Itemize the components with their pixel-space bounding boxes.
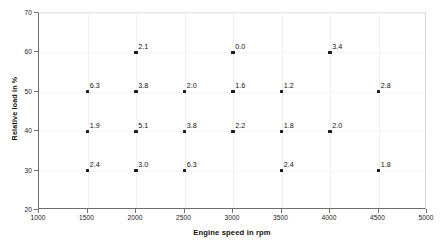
y-axis-title: Relative load in % xyxy=(10,54,19,164)
y-tick-mark xyxy=(34,170,38,171)
data-point-marker xyxy=(377,90,380,93)
data-point-marker xyxy=(86,90,89,93)
y-tick-mark xyxy=(34,51,38,52)
x-tick-label: 1500 xyxy=(79,214,94,221)
data-point-label: 5.1 xyxy=(138,121,148,130)
data-point-label: 2.8 xyxy=(381,81,391,90)
y-tick-label: 40 xyxy=(24,127,32,134)
data-point-label: 3.8 xyxy=(138,81,148,90)
data-point-marker xyxy=(86,130,89,133)
data-point-marker xyxy=(86,169,89,172)
data-point-marker xyxy=(134,130,137,133)
data-point-label: 2.4 xyxy=(90,160,100,169)
data-point-marker xyxy=(183,169,186,172)
horizontal-gridline xyxy=(39,171,425,172)
data-point-label: 1.9 xyxy=(90,121,100,130)
y-tick-label: 20 xyxy=(24,206,32,213)
data-point-label: 2.0 xyxy=(187,81,197,90)
data-point-marker xyxy=(377,169,380,172)
data-point-label: 0.0 xyxy=(235,42,245,51)
data-point-label: 6.3 xyxy=(187,160,197,169)
data-point-marker xyxy=(134,90,137,93)
data-point-label: 2.4 xyxy=(284,160,294,169)
data-point-marker xyxy=(328,51,331,54)
horizontal-gridline xyxy=(39,13,425,14)
data-point-label: 6.3 xyxy=(90,81,100,90)
y-tick-mark xyxy=(34,91,38,92)
x-tick-label: 2000 xyxy=(127,214,142,221)
data-point-marker xyxy=(231,51,234,54)
x-tick-label: 2500 xyxy=(176,214,191,221)
data-point-marker xyxy=(280,90,283,93)
x-tick-mark xyxy=(281,209,282,213)
data-point-marker xyxy=(280,169,283,172)
data-point-label: 3.0 xyxy=(138,160,148,169)
data-point-marker xyxy=(231,90,234,93)
data-point-marker xyxy=(280,130,283,133)
vertical-gridline xyxy=(185,13,186,208)
vertical-gridline xyxy=(282,13,283,208)
x-tick-mark xyxy=(378,209,379,213)
data-point-label: 1.8 xyxy=(381,160,391,169)
data-point-marker xyxy=(183,130,186,133)
x-tick-label: 4000 xyxy=(321,214,336,221)
y-tick-mark xyxy=(34,209,38,210)
vertical-gridline xyxy=(88,13,89,208)
data-point-label: 2.2 xyxy=(235,121,245,130)
gridlines xyxy=(39,13,425,208)
y-tick-mark xyxy=(34,130,38,131)
data-point-marker xyxy=(134,169,137,172)
x-tick-label: 5000 xyxy=(418,214,433,221)
vertical-gridline xyxy=(136,13,137,208)
plot-area: 2.10.03.46.33.82.01.61.22.81.95.13.82.21… xyxy=(38,12,426,209)
data-point-marker xyxy=(183,90,186,93)
x-tick-mark xyxy=(232,209,233,213)
data-point-marker xyxy=(231,130,234,133)
data-point-label: 3.4 xyxy=(332,42,342,51)
data-point-label: 3.8 xyxy=(187,121,197,130)
x-tick-label: 1000 xyxy=(30,214,45,221)
data-point-label: 1.2 xyxy=(284,81,294,90)
y-tick-label: 70 xyxy=(24,9,32,16)
vertical-gridline xyxy=(379,13,380,208)
x-tick-mark xyxy=(135,209,136,213)
x-tick-mark xyxy=(329,209,330,213)
data-point-label: 2.0 xyxy=(332,121,342,130)
y-tick-label: 30 xyxy=(24,166,32,173)
x-axis-title: Engine speed in rpm xyxy=(38,228,426,237)
x-tick-mark xyxy=(184,209,185,213)
data-point-marker xyxy=(134,51,137,54)
x-tick-label: 4500 xyxy=(370,214,385,221)
y-tick-label: 50 xyxy=(24,87,32,94)
x-tick-label: 3000 xyxy=(224,214,239,221)
data-point-marker xyxy=(328,130,331,133)
data-point-label: 1.6 xyxy=(235,81,245,90)
scatter-chart-figure: 2.10.03.46.33.82.01.61.22.81.95.13.82.21… xyxy=(0,0,444,248)
data-point-label: 2.1 xyxy=(138,42,148,51)
y-tick-mark xyxy=(34,12,38,13)
vertical-gridline xyxy=(233,13,234,208)
x-tick-mark xyxy=(38,209,39,213)
vertical-gridline xyxy=(330,13,331,208)
y-tick-label: 60 xyxy=(24,48,32,55)
x-tick-label: 3500 xyxy=(273,214,288,221)
x-tick-mark xyxy=(87,209,88,213)
x-tick-mark xyxy=(426,209,427,213)
data-point-label: 1.8 xyxy=(284,121,294,130)
